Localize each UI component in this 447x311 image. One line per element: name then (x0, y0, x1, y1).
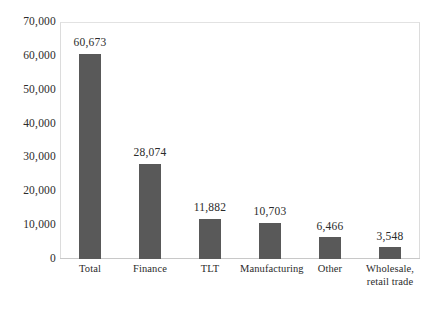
bar-value-label: 10,703 (254, 206, 287, 218)
bar-group: 6,466 (300, 22, 360, 259)
y-axis-tick-label: 70,000 (0, 16, 56, 28)
x-axis-category-labels: TotalFinanceTLTManufacturingOtherWholesa… (60, 262, 420, 308)
bar (79, 54, 101, 259)
y-axis-tick-label: 60,000 (0, 50, 56, 62)
y-axis-tick-label: 0 (0, 253, 56, 265)
bar (379, 247, 401, 259)
bar-chart: 010,00020,00030,00040,00050,00060,00070,… (0, 0, 447, 311)
bar-value-label: 11,882 (194, 202, 226, 214)
category-label: Wholesale, retail trade (360, 262, 420, 288)
bar-value-label: 6,466 (317, 221, 344, 233)
y-axis-tick-label: 20,000 (0, 186, 56, 198)
bar-value-label: 60,673 (74, 37, 107, 49)
bar (259, 223, 281, 259)
bar-group: 60,673 (60, 22, 120, 259)
y-axis-tick-label: 50,000 (0, 84, 56, 96)
category-label: Total (60, 262, 120, 275)
bar (319, 237, 341, 259)
bar-group: 11,882 (180, 22, 240, 259)
category-label: Finance (120, 262, 180, 275)
bar-value-label: 28,074 (134, 147, 167, 159)
bars-layer: 60,67328,07411,88210,7036,4663,548 (60, 22, 420, 259)
y-axis-tick-label: 10,000 (0, 219, 56, 231)
y-axis: 010,00020,00030,00040,00050,00060,00070,… (0, 0, 56, 311)
bar-group: 28,074 (120, 22, 180, 259)
bar (139, 164, 161, 259)
bar-group: 10,703 (240, 22, 300, 259)
y-axis-tick-label: 30,000 (0, 152, 56, 164)
bar-value-label: 3,548 (377, 231, 404, 243)
bar-group: 3,548 (360, 22, 420, 259)
category-label: Other (300, 262, 360, 275)
category-label: TLT (180, 262, 240, 275)
category-label: Manufacturing (240, 262, 300, 275)
bar (199, 219, 221, 259)
y-axis-tick-label: 40,000 (0, 118, 56, 130)
